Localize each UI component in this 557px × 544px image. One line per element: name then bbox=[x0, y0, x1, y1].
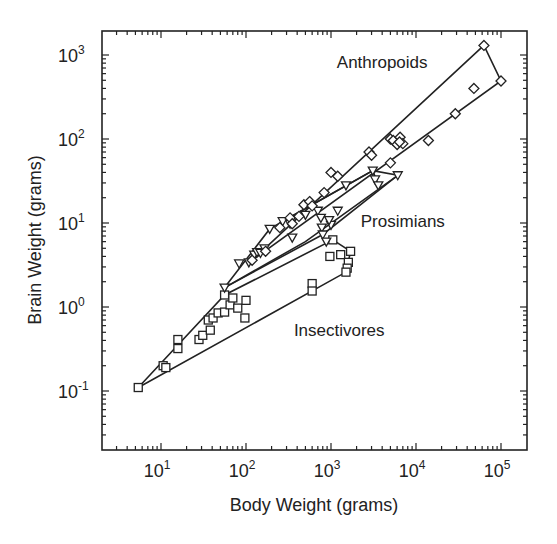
prosimians-point bbox=[288, 234, 297, 242]
prosimians-point bbox=[341, 182, 350, 190]
insectivores-point bbox=[242, 296, 250, 304]
x-axis-title: Body Weight (grams) bbox=[230, 495, 399, 515]
insectivores-point bbox=[308, 287, 316, 295]
prosimians-point bbox=[316, 214, 325, 222]
x-tick-label: 104 bbox=[399, 458, 426, 481]
x-tick-label: 103 bbox=[314, 458, 341, 481]
y-tick-label: 103 bbox=[58, 43, 85, 66]
y-tick-label: 100 bbox=[58, 295, 85, 318]
axis-tick-labels: 10110210310410510-1100101102103 bbox=[58, 43, 511, 481]
prosimians-connector bbox=[225, 175, 398, 287]
axis-ticks bbox=[102, 31, 527, 450]
insectivores-point bbox=[347, 247, 355, 255]
y-axis-title: Brain Weight (grams) bbox=[25, 155, 45, 325]
group-label-prosimians: Prosimians bbox=[361, 212, 445, 231]
prosimians-point bbox=[333, 207, 342, 215]
insectivores-point bbox=[174, 345, 182, 353]
x-tick-label: 105 bbox=[484, 458, 511, 481]
insectivores-point bbox=[234, 304, 242, 312]
insectivores-point bbox=[229, 294, 237, 302]
anthropoids-point bbox=[469, 83, 479, 93]
anthropoids-point bbox=[385, 158, 395, 168]
insectivores-point bbox=[241, 314, 249, 322]
insectivores-point bbox=[342, 268, 350, 276]
group-label-insectivores: Insectivores bbox=[294, 321, 385, 340]
anthropoids-point bbox=[423, 135, 433, 145]
insectivores-point bbox=[337, 251, 345, 259]
insectivores-point bbox=[206, 326, 214, 334]
y-tick-label: 102 bbox=[58, 127, 85, 150]
y-tick-label: 10-1 bbox=[58, 379, 89, 402]
insectivores-point bbox=[162, 364, 170, 372]
plot-frame bbox=[102, 31, 527, 450]
y-tick-label: 101 bbox=[58, 211, 85, 234]
group-label-anthropoids: Anthropoids bbox=[337, 53, 428, 72]
insectivores-point bbox=[326, 252, 334, 260]
x-tick-label: 102 bbox=[229, 458, 256, 481]
insectivores-point bbox=[174, 336, 182, 344]
x-tick-label: 101 bbox=[144, 458, 171, 481]
insectivores-point bbox=[199, 331, 207, 339]
anthropoids-point bbox=[496, 76, 506, 86]
insectivores-point bbox=[134, 384, 142, 392]
scatter-chart: 10110210310410510-1100101102103 Anthropo… bbox=[0, 0, 557, 544]
